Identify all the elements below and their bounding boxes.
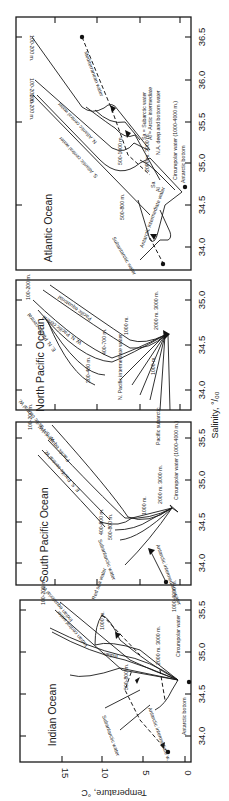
io-tick-34-5: 34.5 (196, 685, 207, 704)
np-300-400-label: 300-400 m. (85, 357, 91, 383)
np-convergence-arrow (163, 330, 170, 340)
io-aabw-label: Antarctic bottom (181, 698, 187, 735)
np-tick-34-0: 34.0 (196, 381, 207, 400)
atlantic-panel: 36.5 36.0 35.5 35.0 34.5 34.0 Atlantic O… (16, 17, 207, 276)
np-subarctic-label: Pacific subarctic (155, 407, 161, 445)
atl-depth-label-1: 100-200 m. (29, 35, 35, 61)
sp-1000-label: 1000 m. (141, 496, 147, 515)
atl-aabw-dot (183, 185, 187, 189)
atl-500-1000-label: 500-1000 m. (117, 136, 123, 165)
temp-tick-10: 10 (100, 768, 111, 779)
sp-tick-34-0: 34.0 (196, 554, 207, 573)
sp-aaiw-dot (164, 580, 168, 584)
np-1000-label-a: 1000 m. (123, 316, 129, 335)
atl-500-800-label: 500-800 m. (119, 194, 125, 220)
sp-aaiw-label: Antarctic intermediate water (155, 543, 183, 606)
sp-500-800-label: 500-800 m. (107, 514, 113, 540)
io-redsea-label: Red sea water (90, 567, 107, 601)
io-indian-label: Indian (103, 652, 118, 660)
atl-legend-nadw: N.A. deep and bottom water (155, 90, 161, 155)
io-2000-3000-label: 2000 m. 3000 m. (155, 626, 161, 665)
sp-tick-35-5: 35.5 (196, 429, 207, 448)
atl-legend-al: Al = Arctic intermediate (147, 87, 153, 140)
atl-legend-aabw: Antarctic bottom (180, 146, 186, 183)
io-aaiw-label: Antarctic intermediate w. (147, 706, 172, 761)
atl-med-origin-dot (80, 35, 84, 39)
atl-aaiw-origin-dot (161, 262, 165, 266)
io-redsea-arrow (115, 632, 121, 639)
south-pacific-title: South Pacific Ocean (38, 487, 50, 582)
io-500-800-label: 500-800 m. (123, 664, 129, 690)
io-circumpolar-label: Circumpolar water (175, 615, 181, 657)
atl-tick-34-5: 34.5 (196, 196, 207, 215)
sp-tick-35-0: 35.0 (196, 471, 207, 490)
np-npiw-label: N. Pacific intermediate water (117, 334, 123, 400)
south-pacific-panel: 35.5 35.0 34.5 34.0 South Pacific Ocean … (16, 398, 207, 606)
ts-diagram-figure: 36.5 36.0 35.5 35.0 34.5 34.0 Atlantic O… (0, 0, 229, 801)
indian-title: Indian Ocean (46, 684, 58, 747)
sp-2000-3000-label: 2000 m. 3000 m. (157, 465, 163, 504)
io-tick-35-0: 35.0 (196, 643, 207, 662)
temp-tick-15: 15 (60, 768, 71, 779)
io-1000-4000-label: 1000-4000 m. (171, 580, 177, 612)
salinity-axis-label: Salinity, °/₀₀ (210, 391, 220, 438)
np-2000-3000-label: 2000 m. 3000 m. (153, 291, 159, 330)
sp-400-600-label: 400-600 m. (98, 509, 104, 535)
io-redsea-loop (95, 615, 178, 680)
temp-tick-0: 0 (183, 770, 194, 775)
atl-tick-35-0: 35.0 (196, 154, 207, 173)
io-1000-label: 1000 m. (99, 611, 105, 630)
np-intermediate-lines (120, 335, 165, 400)
np-tick-35-0: 35.0 (196, 291, 207, 310)
sp-tick-34-5: 34.5 (196, 513, 207, 532)
atl-med-label: Mediterranean water (83, 50, 105, 97)
np-equatorial-label: Pacific equatorial (57, 295, 93, 323)
atl-al-label: Al (155, 187, 161, 192)
atlantic-title: Atlantic Ocean (42, 194, 54, 262)
atl-tick-35-5: 35.5 (196, 113, 207, 132)
atl-legend-circumpolar: Circumpolar water (1000-4000 m.) (172, 101, 178, 180)
np-400-700-label: 400-700 m. (101, 329, 107, 355)
temperature-tick-labels: 0 5 10 15 (60, 768, 194, 779)
io-aaiw-curve (155, 680, 178, 710)
np-1000-label-b: 1000 m. (150, 356, 156, 375)
io-tick-35-5: 35.5 (196, 601, 207, 620)
np-subarctic-lines (160, 335, 170, 410)
io-aabw-dot (187, 680, 191, 684)
np-depth-label: 100-200 m. (25, 274, 31, 300)
sp-circumpolar-label: Circumpolar water (1000-4000 m.) (173, 421, 179, 500)
np-tick-34-5: 34.5 (196, 336, 207, 355)
io-aaiw-arrow-1 (135, 677, 140, 684)
atl-tick-36-0: 36.0 (196, 71, 207, 90)
atl-sa-label: Sa (150, 182, 156, 188)
atl-depth-label-3: 100-200 m. (29, 94, 35, 120)
atl-tick-34-0: 34.0 (196, 238, 207, 257)
io-tick-34-0: 34.0 (196, 727, 207, 746)
north-pacific-panel: 35.0 34.5 34.0 North Pacific Ocean 100-2… (16, 274, 207, 445)
io-subantarctic-lines (105, 690, 150, 730)
atl-tick-36-5: 36.5 (196, 28, 207, 47)
temperature-axis-label: Temperature, °C (81, 788, 147, 798)
io-subantarctic-label: Subantarctic water (101, 714, 121, 757)
temp-tick-5: 5 (141, 770, 152, 775)
